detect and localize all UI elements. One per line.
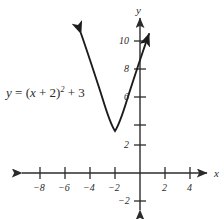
x-tick-label--2: −2 bbox=[108, 183, 120, 193]
equation-annotation: y = (x + 2)2 + 3 bbox=[6, 86, 85, 101]
y-tick-label--2: −2 bbox=[118, 196, 130, 206]
x-axis-label: x bbox=[214, 168, 219, 179]
graph-figure: −8 −6 −4 −2 2 4 10 8 6 2 −2 y x y = (x +… bbox=[0, 0, 224, 219]
parabola-curve bbox=[81, 34, 149, 132]
y-tick-label-2: 2 bbox=[124, 140, 129, 150]
y-tick-label-6: 6 bbox=[124, 92, 129, 102]
x-tick-label--6: −6 bbox=[58, 183, 70, 193]
y-tick-label-8: 8 bbox=[124, 64, 129, 74]
equation-equals: = bbox=[12, 85, 26, 100]
y-tick-label-10: 10 bbox=[119, 36, 129, 46]
equation-outer-plus: + bbox=[64, 85, 78, 100]
equation-inner-plus: + bbox=[36, 85, 50, 100]
x-tick-label-2: 2 bbox=[162, 183, 167, 193]
parabola-path bbox=[81, 34, 149, 132]
equation-outer-constant: 3 bbox=[78, 85, 85, 100]
x-axis bbox=[22, 167, 207, 179]
x-tick-label--4: −4 bbox=[83, 183, 95, 193]
y-axis-label: y bbox=[136, 5, 141, 16]
x-tick-label--8: −8 bbox=[33, 183, 45, 193]
x-tick-label-4: 4 bbox=[187, 183, 192, 193]
